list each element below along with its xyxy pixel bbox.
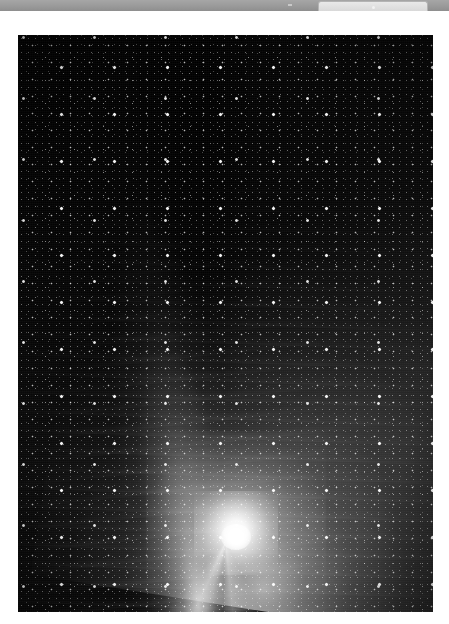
dot-icon (372, 6, 375, 9)
tick-icon (288, 4, 292, 6)
window-toolbar[interactable] (0, 0, 449, 11)
page-body (0, 11, 449, 624)
app-window (0, 0, 449, 624)
comet-photograph[interactable] (18, 35, 433, 612)
comet-nucleus (221, 524, 251, 550)
